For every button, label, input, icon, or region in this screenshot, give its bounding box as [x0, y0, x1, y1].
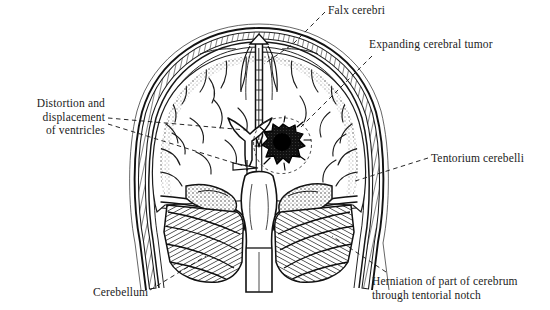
brainstem	[241, 172, 276, 293]
label-tentorium-cerebelli: Tentorium cerebelli	[431, 152, 524, 166]
label-falx-cerebri: Falx cerebri	[328, 4, 385, 18]
label-herniation-tentorial-notch: Herniation of part of cerebrum through t…	[372, 275, 518, 302]
label-cerebellum: Cerebellum	[93, 286, 148, 300]
label-distortion-displacement-ventricles: Distortion and displacement of ventricle…	[2, 97, 105, 138]
anatomical-figure: Falx cerebri Expanding cerebral tumor Di…	[0, 0, 550, 310]
label-expanding-cerebral-tumor: Expanding cerebral tumor	[369, 38, 493, 52]
